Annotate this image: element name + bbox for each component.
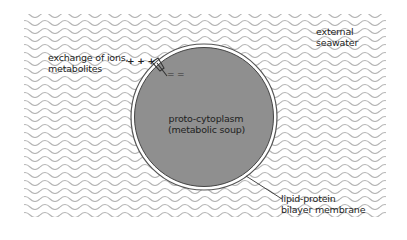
external-label-line1: external: [316, 26, 358, 37]
outside-charges: + + +: [127, 56, 155, 67]
membrane-label-line2: bilayer membrane: [281, 204, 365, 215]
membrane-label-line1: lipid-protein: [281, 193, 365, 204]
cytoplasm-label-line1: proto-cytoplasm: [168, 113, 244, 124]
cytoplasm-label: proto-cytoplasm (metabolic soup): [168, 113, 244, 135]
exchange-label: exchange of ions, metabolites: [48, 52, 128, 74]
inside-charges: = =: [167, 69, 184, 80]
exchange-label-line2: metabolites: [48, 63, 128, 74]
membrane-label: lipid-protein bilayer membrane: [281, 193, 365, 215]
exchange-label-line1: exchange of ions,: [48, 52, 128, 63]
external-label-line2: seawater: [316, 37, 358, 48]
external-seawater-label: external seawater: [316, 26, 358, 48]
cytoplasm-label-line2: (metabolic soup): [168, 124, 244, 135]
